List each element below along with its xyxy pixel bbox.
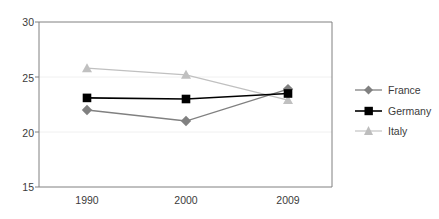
- line-chart: 30 25 20 15 1990 2000 2009 France German…: [0, 0, 439, 219]
- legend-item-italy[interactable]: Italy: [355, 125, 408, 137]
- square-marker-icon: [83, 94, 92, 103]
- legend-item-france[interactable]: France: [355, 84, 421, 96]
- square-marker-icon: [182, 95, 191, 104]
- y-tick-label-30: 30: [22, 16, 34, 28]
- x-tick-label-1990: 1990: [75, 194, 99, 206]
- legend-label-italy: Italy: [388, 125, 408, 137]
- plot-area-background: [39, 22, 332, 187]
- chart-legend: France Germany Italy: [355, 84, 432, 137]
- y-axis-ticks: [35, 22, 39, 187]
- x-tick-label-2009: 2009: [276, 194, 300, 206]
- y-tick-label-25: 25: [22, 72, 34, 84]
- legend-label-france: France: [388, 84, 421, 96]
- legend-item-germany[interactable]: Germany: [355, 105, 432, 117]
- y-tick-label-20: 20: [22, 127, 34, 139]
- diamond-marker-icon: [364, 86, 373, 95]
- square-marker-icon: [365, 107, 373, 115]
- square-marker-icon: [284, 89, 293, 98]
- legend-label-germany: Germany: [388, 105, 432, 117]
- chart-canvas: 30 25 20 15 1990 2000 2009 France German…: [0, 0, 439, 219]
- y-tick-label-15: 15: [22, 181, 34, 193]
- x-tick-label-2000: 2000: [174, 194, 198, 206]
